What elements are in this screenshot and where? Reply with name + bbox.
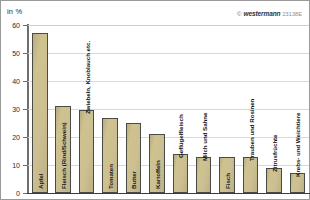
copyright-credit: © westermann 23138E [237,10,302,17]
copyright-icon: © [237,11,241,17]
bar-label: Fisch [224,173,231,189]
bar-label: Trauben und Rosinen [247,98,254,160]
publisher-name: westermann [243,10,280,17]
bar[interactable]: Trauben und Rosinen [243,157,259,193]
bar[interactable]: Krebs- und Weichtiere [290,173,306,193]
bar[interactable]: Fleisch (Rind/Schwein) [55,106,71,193]
bar[interactable]: Zwiebeln, Knoblauch etc. [79,110,95,193]
bar-label: Butter [130,171,137,189]
bar-label: Geflügelfleisch [177,114,184,158]
y-tick-label: 10 [12,162,20,169]
bar-label: Zwiebeln, Knoblauch etc. [83,41,90,114]
bar-label: Kartoffeln [153,160,160,189]
bar[interactable]: Apfel [32,33,48,193]
bar-label: Krebs- und Weichtiere [294,113,301,178]
y-axis-ticks: 0102030405060 [1,1,28,200]
bar[interactable]: Tomaten [102,118,118,193]
gridline [28,81,309,82]
y-tick-label: 30 [12,106,20,113]
gridline [28,25,309,26]
y-tick-label: 20 [12,134,20,141]
bar[interactable]: Zitrusfrüchte [266,168,282,193]
bar-label: Apfel [36,174,43,189]
gridline [28,53,309,54]
y-tick-label: 50 [12,50,20,57]
bar[interactable]: Geflügelfleisch [173,154,189,193]
bar-label: Milch und Sahne [200,112,207,160]
y-tick-label: 0 [16,190,20,197]
bar-label: Zitrusfrüchte [271,134,278,172]
y-tick-label: 40 [12,78,20,85]
chart-figure: in % © westermann 23138E 0102030405060 A… [0,0,310,200]
y-tick-label: 60 [12,22,20,29]
bar[interactable]: Fisch [219,157,235,193]
figure-code: 23138E [282,11,302,17]
bar-label: Fleisch (Rind/Schwein) [60,122,67,189]
plot-area: ApfelFleisch (Rind/Schwein)Zwiebeln, Kno… [28,25,309,193]
bar[interactable]: Butter [126,123,142,193]
bar[interactable]: Kartoffeln [149,134,165,193]
bar-label: Tomaten [107,164,114,189]
bar[interactable]: Milch und Sahne [196,157,212,193]
